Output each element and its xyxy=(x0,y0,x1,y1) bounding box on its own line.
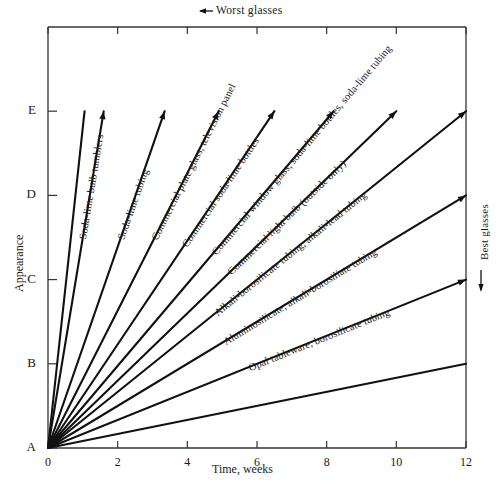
appearance-vs-time-chart: 024681012 ABCDE Soda-lime bulb tumblersS… xyxy=(0,0,501,490)
worst-glasses-annotation: Worst glasses xyxy=(216,4,283,16)
series-line xyxy=(48,364,466,448)
x-axis-title: Time, weeks xyxy=(212,462,273,477)
best-glasses-annotation: Best glasses xyxy=(478,204,490,260)
y-axis-title: Appearance xyxy=(12,235,27,292)
x-tick-label: 10 xyxy=(376,455,416,470)
x-tick-label: 4 xyxy=(167,455,207,470)
x-tick-label: 12 xyxy=(446,455,486,470)
y-tick-label: D xyxy=(6,186,36,202)
y-tick-label: B xyxy=(6,355,36,371)
x-tick-label: 2 xyxy=(98,455,138,470)
y-tick-label: E xyxy=(6,102,36,118)
x-tick-label: 0 xyxy=(28,455,68,470)
y-tick-label: A xyxy=(6,439,36,455)
x-tick-label: 8 xyxy=(307,455,347,470)
